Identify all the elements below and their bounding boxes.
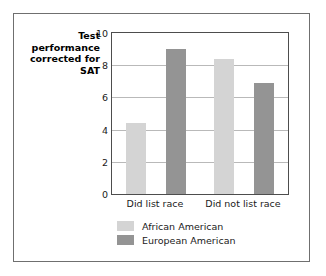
bar <box>214 59 234 194</box>
legend-swatch-icon <box>117 221 134 231</box>
x-axis-category-label: Did list race <box>127 198 184 209</box>
y-tick-label: 2 <box>102 156 108 167</box>
legend-item-label: African American <box>142 221 223 232</box>
bar <box>254 83 274 194</box>
x-axis-category-label: Did not list race <box>205 198 280 209</box>
bar <box>166 49 186 194</box>
y-tick-label: 10 <box>96 28 108 39</box>
y-tick-label: 0 <box>102 189 108 200</box>
gridline <box>112 65 288 66</box>
y-tick-label: 6 <box>102 92 108 103</box>
chart-legend: African American European American <box>117 219 235 247</box>
plot-area: 0246810 <box>111 32 289 195</box>
y-axis-title: Test performance corrected for SAT <box>18 30 100 76</box>
legend-item: European American <box>117 233 235 247</box>
chart-figure: Test performance corrected for SAT 02468… <box>13 13 310 262</box>
legend-item-label: European American <box>142 235 235 246</box>
y-tick-label: 4 <box>102 124 108 135</box>
y-tick-label: 8 <box>102 60 108 71</box>
bar <box>126 123 146 194</box>
legend-swatch-icon <box>117 235 134 245</box>
legend-item: African American <box>117 219 235 233</box>
